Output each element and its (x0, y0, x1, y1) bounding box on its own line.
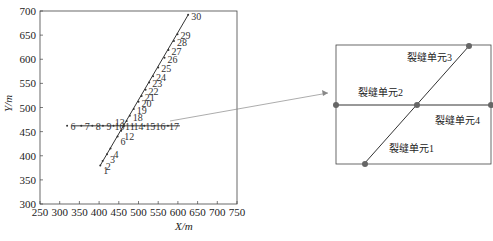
svg-text:450: 450 (20, 126, 37, 138)
svg-text:300: 300 (51, 206, 68, 218)
inset-label-3: 裂缝单元3 (407, 51, 452, 63)
svg-text:8: 8 (96, 121, 101, 132)
node-icon (362, 161, 368, 167)
node-icon (414, 102, 420, 108)
inset-label-4: 裂缝单元4 (435, 114, 480, 126)
fracture-diagram: 250300350400450500550600650700750 300350… (0, 0, 493, 241)
svg-text:300: 300 (20, 198, 37, 210)
svg-text:29: 29 (181, 30, 191, 41)
svg-text:550: 550 (20, 77, 37, 89)
x-axis-label: X/m (174, 220, 193, 232)
svg-text:550: 550 (150, 206, 167, 218)
svg-text:600: 600 (20, 53, 37, 65)
x-axis: 250300350400450500550600650700750 (32, 201, 246, 218)
svg-text:14: 14 (134, 121, 144, 132)
svg-text:16: 16 (156, 121, 166, 132)
svg-text:17: 17 (169, 121, 179, 132)
y-axis: 300350400450500550600650700 (20, 5, 44, 210)
y-axis-label: Y/m (2, 95, 14, 112)
inset-label-2: 裂缝单元2 (358, 86, 403, 98)
svg-text:750: 750 (229, 206, 246, 218)
svg-text:400: 400 (20, 150, 37, 162)
node-icon (466, 43, 472, 49)
svg-text:700: 700 (209, 206, 226, 218)
node-icon (488, 102, 493, 108)
node-icon (333, 102, 339, 108)
svg-text:350: 350 (20, 174, 37, 186)
svg-text:500: 500 (20, 102, 37, 114)
svg-text:9: 9 (106, 121, 111, 132)
arrow-head-icon (322, 90, 328, 96)
svg-text:25: 25 (161, 63, 171, 74)
connector-line (170, 93, 328, 121)
svg-text:650: 650 (189, 206, 206, 218)
svg-text:400: 400 (91, 206, 108, 218)
data-series: 1234612131819202122232425262728293067891… (66, 11, 201, 177)
svg-text:350: 350 (71, 206, 88, 218)
svg-text:4: 4 (114, 149, 119, 160)
svg-text:600: 600 (170, 206, 187, 218)
inset-label-1: 裂缝单元1 (389, 142, 434, 154)
svg-text:500: 500 (130, 206, 147, 218)
svg-text:6: 6 (71, 121, 76, 132)
svg-text:650: 650 (20, 29, 37, 41)
svg-text:450: 450 (111, 206, 128, 218)
svg-text:7: 7 (85, 121, 90, 132)
svg-text:12: 12 (124, 131, 134, 142)
svg-text:30: 30 (191, 11, 201, 22)
svg-text:700: 700 (20, 5, 37, 17)
inset-diagram: 裂缝单元3 裂缝单元2 裂缝单元4 裂缝单元1 (333, 43, 493, 167)
